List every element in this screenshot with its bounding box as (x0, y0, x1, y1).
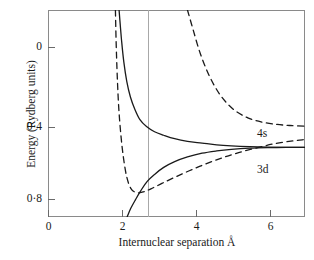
x-tick-label-0: 0 (38, 221, 59, 233)
y-axis-ticks (48, 48, 55, 200)
x-tick-label-2: 2 (112, 221, 133, 233)
curve-series-1 (127, 147, 304, 217)
data-curves (115, 10, 304, 217)
curve-series-2 (187, 10, 304, 126)
curve-label-4s: 4s (257, 127, 267, 139)
x-tick-label-4: 4 (186, 221, 207, 233)
x-tick-label-6: 6 (260, 221, 281, 233)
plot-frame (48, 10, 305, 217)
chart-figure: 0 0·4 0·8 0 2 4 6 Energy (Rydberg units)… (0, 0, 314, 260)
x-axis-title: Internuclear separation Å (48, 236, 306, 248)
curve-series-3 (115, 10, 304, 193)
curve-series-0 (119, 10, 304, 147)
y-axis-title: Energy (Rydberg units) (25, 29, 37, 199)
curve-label-3d: 3d (257, 163, 269, 175)
